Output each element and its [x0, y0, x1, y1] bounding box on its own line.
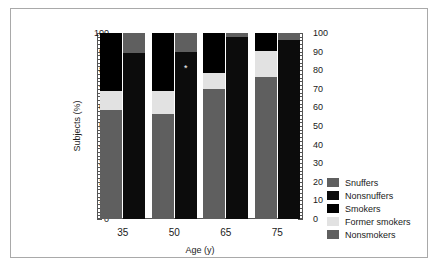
bar-segment	[175, 52, 197, 219]
x-axis-title: Age (y)	[97, 245, 303, 255]
legend-swatch	[327, 230, 339, 239]
legend-item: Former smokers	[327, 216, 411, 227]
legend-item: Smokers	[327, 203, 411, 214]
stacked-bar	[203, 33, 225, 219]
stacked-bar: *	[175, 33, 197, 219]
stacked-bar	[152, 33, 174, 219]
bar-group	[255, 33, 300, 219]
bar-segment	[255, 51, 277, 77]
bar-group	[100, 33, 145, 219]
legend: SnuffersNonsnuffersSmokersFormer smokers…	[327, 177, 411, 242]
y-tick-major	[97, 219, 102, 220]
bar-segment	[175, 33, 197, 52]
y-axis-right-label: 70	[313, 84, 323, 94]
y-axis-title: Subjects (%)	[72, 100, 82, 151]
bar-segment	[203, 33, 225, 73]
legend-item: Snuffers	[327, 177, 411, 188]
y-axis-right-label: 100	[313, 28, 328, 38]
bar-segment	[123, 53, 145, 219]
bar-segment	[203, 89, 225, 219]
x-axis-tick-label: 65	[220, 227, 231, 238]
y-axis-right-label: 40	[313, 140, 323, 150]
bar-segment	[100, 110, 122, 219]
bar-segment	[123, 33, 145, 53]
significance-marker: *	[184, 65, 188, 70]
bar-segment	[278, 33, 300, 40]
legend-label: Former smokers	[345, 217, 411, 227]
y-axis-right-label: 60	[313, 102, 323, 112]
y-tick-major	[298, 219, 303, 220]
y-axis-right-label: 0	[313, 214, 318, 224]
bar-segment	[226, 33, 248, 37]
bar-segment	[100, 33, 122, 91]
legend-swatch	[327, 204, 339, 213]
plot-area: 0102030405060708090100 01020304050607080…	[97, 33, 303, 219]
bar-group: *	[152, 33, 197, 219]
bar-segment	[152, 114, 174, 219]
y-axis-right-label: 20	[313, 177, 323, 187]
stacked-bar	[123, 33, 145, 219]
bar-segment	[255, 77, 277, 219]
figure: 0102030405060708090100 01020304050607080…	[0, 0, 440, 269]
bar-segment	[278, 40, 300, 219]
legend-label: Nonsmokers	[345, 230, 396, 240]
stacked-bar	[278, 33, 300, 219]
legend-label: Nonsnuffers	[345, 191, 393, 201]
stacked-bar	[226, 33, 248, 219]
legend-label: Snuffers	[345, 178, 378, 188]
bar-segment	[255, 33, 277, 51]
legend-item: Nonsnuffers	[327, 190, 411, 201]
stacked-bar	[100, 33, 122, 219]
x-axis-tick-label: 50	[169, 227, 180, 238]
bar-segment	[203, 73, 225, 89]
stacked-bar	[255, 33, 277, 219]
x-axis-tick-label: 75	[272, 227, 283, 238]
legend-swatch	[327, 191, 339, 200]
x-axis-tick-label: 35	[117, 227, 128, 238]
bar-segment	[100, 91, 122, 111]
y-axis-right-label: 50	[313, 121, 323, 131]
y-axis-right-label: 80	[313, 65, 323, 75]
figure-border: 0102030405060708090100 01020304050607080…	[10, 8, 428, 258]
bar-segment	[152, 33, 174, 91]
bar-segment	[226, 37, 248, 219]
bar-segment	[152, 91, 174, 114]
y-axis-right-label: 30	[313, 158, 323, 168]
y-axis-right-label: 90	[313, 47, 323, 57]
legend-swatch	[327, 178, 339, 187]
legend-swatch	[327, 217, 339, 226]
bar-group	[203, 33, 248, 219]
y-axis-right-label: 10	[313, 195, 323, 205]
legend-label: Smokers	[345, 204, 381, 214]
legend-item: Nonsmokers	[327, 229, 411, 240]
